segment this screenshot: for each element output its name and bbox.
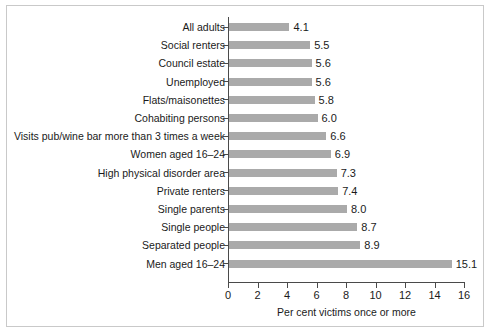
y-axis-tick [223,99,228,100]
bar [229,96,315,104]
x-axis-tick [405,283,406,288]
y-axis-tick [223,45,228,46]
figure: All adults4.1Social renters5.5Council es… [0,0,490,333]
bar-row: All adults4.1 [0,18,490,36]
category-label: Cohabiting persons [135,109,225,127]
bar-value-label: 4.1 [293,18,308,36]
bar [229,187,338,195]
bar-value-label: 5.6 [316,54,331,72]
bar [229,223,357,231]
category-label: Women aged 16–24 [131,145,225,163]
bar-row: Social renters5.5 [0,36,490,54]
y-axis-tick [223,190,228,191]
bar-chart-plot-area: All adults4.1Social renters5.5Council es… [0,0,490,333]
bar-row: Women aged 16–246.9 [0,145,490,163]
bar-row: Private renters7.4 [0,182,490,200]
y-axis-tick [223,136,228,137]
y-axis-tick [223,81,228,82]
x-axis-tick [317,283,318,288]
category-label: Separated people [142,236,225,254]
bar-row: Separated people8.9 [0,236,490,254]
bar [229,41,310,49]
x-axis-tick [346,283,347,288]
x-axis-tick [287,283,288,288]
category-label: Visits pub/wine bar more than 3 times a … [14,127,225,145]
bar [229,241,360,249]
x-axis-title: Per cent victims once or more [228,306,465,318]
y-axis-tick [223,27,228,28]
bar-row: Visits pub/wine bar more than 3 times a … [0,127,490,145]
bar-row: Flats/maisonettes5.8 [0,91,490,109]
category-label: Social renters [161,36,225,54]
bar [229,205,347,213]
bar [229,260,452,268]
x-axis-tick [464,283,465,288]
category-label: Unemployed [166,73,225,91]
x-axis-tick [376,283,377,288]
bar-value-label: 6.6 [330,127,345,145]
category-label: High physical disorder area [98,164,225,182]
bar-value-label: 5.6 [316,73,331,91]
bar-value-label: 6.9 [335,145,350,163]
category-label: Flats/maisonettes [143,91,225,109]
bar [229,23,289,31]
bar-value-label: 8.7 [361,218,376,236]
category-label: All adults [182,18,225,36]
x-axis-tick-label: 16 [444,289,484,301]
bar-value-label: 5.5 [314,36,329,54]
bar [229,78,312,86]
bar [229,114,318,122]
x-axis-tick [258,283,259,288]
bar-value-label: 8.0 [351,200,366,218]
bar [229,59,312,67]
bar-value-label: 5.8 [319,91,334,109]
category-label: Single people [161,218,225,236]
bar-row: Single people8.7 [0,218,490,236]
y-axis-tick [223,172,228,173]
bar-value-label: 7.3 [341,164,356,182]
bar-row: Council estate5.6 [0,54,490,72]
bar-value-label: 8.9 [364,236,379,254]
y-axis-tick [223,209,228,210]
category-label: Council estate [158,54,225,72]
bar-value-label: 6.0 [322,109,337,127]
bar [229,150,331,158]
bar [229,169,337,177]
category-label: Men aged 16–24 [146,255,225,273]
bar-row: Unemployed5.6 [0,73,490,91]
y-axis-tick [223,118,228,119]
bar-value-label: 15.1 [456,255,477,273]
bar-row: Single parents8.0 [0,200,490,218]
bar-row: High physical disorder area7.3 [0,164,490,182]
y-axis-tick [223,154,228,155]
bar-row: Men aged 16–2415.1 [0,255,490,273]
y-axis-tick [223,63,228,64]
bar-value-label: 7.4 [342,182,357,200]
category-label: Private renters [157,182,225,200]
y-axis-tick [223,227,228,228]
category-label: Single parents [158,200,225,218]
y-axis-tick [223,245,228,246]
x-axis-tick [228,283,229,288]
bar-row: Cohabiting persons6.0 [0,109,490,127]
y-axis-tick [223,263,228,264]
bar [229,132,326,140]
x-axis-tick [435,283,436,288]
